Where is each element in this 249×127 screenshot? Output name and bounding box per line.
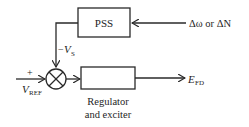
svg-text:S: S — [71, 50, 75, 58]
block-diagram: PSS Δω or ΔN − V S + V REF Regulator and… — [0, 0, 249, 127]
efd-label: E FD — [187, 73, 204, 87]
pss-input-label: Δω or ΔN — [189, 18, 231, 29]
regulator-caption-line2: and exciter — [85, 109, 132, 120]
pss-block: PSS — [78, 8, 130, 37]
vs-label: − V S — [58, 43, 75, 58]
vref-label: V REF — [22, 83, 42, 97]
plus-sign: + — [27, 67, 33, 78]
svg-text:FD: FD — [195, 79, 204, 87]
pss-label: PSS — [95, 17, 113, 29]
regulator-exciter-block: Regulator and exciter — [81, 67, 135, 120]
svg-text:REF: REF — [29, 89, 42, 97]
summing-junction — [46, 69, 66, 89]
svg-text:E: E — [187, 73, 195, 85]
regulator-caption-line1: Regulator — [87, 96, 129, 107]
